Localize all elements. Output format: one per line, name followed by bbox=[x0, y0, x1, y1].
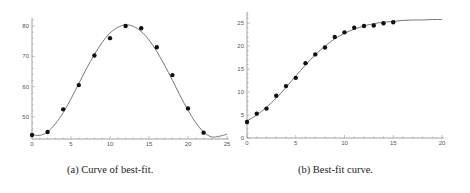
best-fit-curve bbox=[32, 25, 227, 137]
y-tick-label: 20 bbox=[237, 43, 244, 49]
data-point bbox=[186, 106, 190, 110]
y-tick-label: 70 bbox=[22, 53, 29, 59]
x-tick-label: 0 bbox=[30, 141, 34, 147]
data-points bbox=[30, 24, 206, 137]
data-point bbox=[92, 53, 96, 57]
x-tick-label: 25 bbox=[224, 141, 231, 147]
x-tick-label: 15 bbox=[390, 140, 397, 146]
data-point bbox=[303, 61, 307, 65]
data-point bbox=[255, 111, 259, 115]
chart-a-plot: 051015202550607080 bbox=[0, 0, 235, 150]
x-tick-label: 15 bbox=[146, 141, 153, 147]
data-point bbox=[123, 24, 127, 28]
chart-b-caption: (b) Best-fit curve. bbox=[298, 164, 373, 175]
y-tick-label: 50 bbox=[22, 114, 29, 120]
data-point bbox=[381, 21, 385, 25]
data-point bbox=[274, 94, 278, 98]
y-tick-label: 0 bbox=[241, 135, 245, 141]
data-point bbox=[294, 76, 298, 80]
data-point bbox=[170, 73, 174, 77]
data-point bbox=[323, 45, 327, 49]
data-point bbox=[391, 20, 395, 24]
x-tick-label: 5 bbox=[294, 140, 298, 146]
y-tick-label: 80 bbox=[22, 23, 29, 29]
chart-a-caption: (a) Curve of best-fit. bbox=[67, 164, 153, 175]
data-point bbox=[155, 45, 159, 49]
data-points bbox=[245, 20, 396, 124]
y-tick-label: 5 bbox=[241, 112, 245, 118]
y-tick-label: 25 bbox=[237, 20, 244, 26]
data-point bbox=[201, 130, 205, 134]
data-point bbox=[372, 23, 376, 27]
data-point bbox=[45, 130, 49, 134]
data-point bbox=[352, 26, 356, 30]
chart-b: 051015200510152025 (b) Best-fit curve. bbox=[235, 0, 470, 193]
y-tick-label: 15 bbox=[237, 66, 244, 72]
data-point bbox=[61, 107, 65, 111]
y-tick-label: 60 bbox=[22, 84, 29, 90]
data-point bbox=[139, 26, 143, 30]
x-tick-label: 20 bbox=[185, 141, 192, 147]
data-point bbox=[284, 84, 288, 88]
data-point bbox=[77, 83, 81, 87]
x-tick-label: 5 bbox=[69, 141, 73, 147]
y-tick-label: 10 bbox=[237, 89, 244, 95]
chart-a: 051015202550607080 (a) Curve of best-fit… bbox=[0, 0, 235, 193]
data-point bbox=[362, 24, 366, 28]
x-tick-label: 10 bbox=[341, 140, 348, 146]
data-point bbox=[342, 30, 346, 34]
axes: 051015200510152025 bbox=[237, 12, 446, 146]
data-point bbox=[264, 106, 268, 110]
data-point bbox=[313, 52, 317, 56]
best-fit-curve bbox=[247, 19, 442, 121]
x-tick-label: 0 bbox=[245, 140, 249, 146]
data-point bbox=[333, 35, 337, 39]
x-tick-label: 10 bbox=[107, 141, 114, 147]
data-point bbox=[108, 36, 112, 40]
x-tick-label: 20 bbox=[439, 140, 446, 146]
data-point bbox=[245, 120, 249, 124]
data-point bbox=[30, 133, 34, 137]
chart-b-plot: 051015200510152025 bbox=[235, 0, 470, 150]
